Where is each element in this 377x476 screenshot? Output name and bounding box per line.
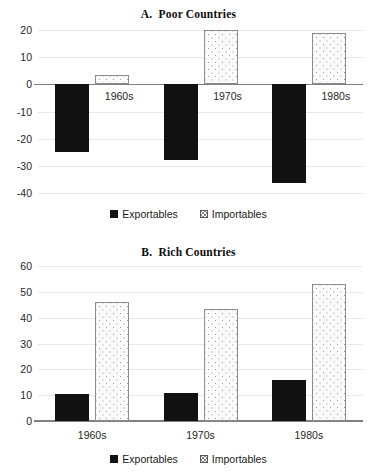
bar-importables-1970s [204,30,238,84]
bar-exportables-1980s [272,84,306,183]
filled-square-icon [110,210,118,218]
x-axis-category-label-1960s: 1960s [105,90,134,102]
panel-a-poor-countries: A. Poor Countries 20100-10-20-30-401960s… [0,0,377,238]
x-axis-category-label-1980s: 1980s [295,429,324,441]
bar-exportables-1980s [272,380,306,421]
y-axis-tick-label: 60 [20,260,32,272]
dotted-square-icon [200,455,208,463]
gridline [38,30,363,31]
bar-importables-1970s [204,309,238,421]
y-axis-tick-label: -10 [17,106,32,118]
legend-label-importables: Importables [212,453,267,465]
panel-a-plot-area: 20100-10-20-30-401960s1970s1980s [38,30,363,193]
bar-exportables-1970s [164,84,198,160]
bar-importables-1960s [95,75,129,85]
legend-item-importables: Importables [200,208,267,220]
y-axis-tick-label: -40 [17,187,32,199]
y-axis-tick-label: 50 [20,286,32,298]
panel-a-legend: Exportables Importables [0,208,377,220]
y-axis-tick-label: -30 [17,160,32,172]
legend-item-exportables: Exportables [110,453,177,465]
bar-exportables-1960s [55,394,89,421]
panel-a-title: A. Poor Countries [0,8,377,20]
bar-importables-1980s [312,33,346,85]
y-axis-tick-label: 0 [26,415,32,427]
panel-b-plot-area: 60504030201001960s1970s1980s [38,266,363,421]
y-axis-tick-label: -20 [17,133,32,145]
legend-label-importables: Importables [212,208,267,220]
y-axis-tick-label: 10 [20,51,32,63]
panel-b-title: B. Rich Countries [0,246,377,258]
y-axis-tick-label: 20 [20,363,32,375]
y-axis-tick-label: 30 [20,338,32,350]
bar-exportables-1970s [164,393,198,421]
x-axis-category-label-1970s: 1970s [213,90,242,102]
legend-label-exportables: Exportables [122,453,177,465]
gridline [38,193,363,194]
x-axis-category-label-1980s: 1980s [322,90,351,102]
panel-b-rich-countries: B. Rich Countries 60504030201001960s1970… [0,238,377,476]
bar-exportables-1960s [55,84,89,152]
filled-square-icon [110,455,118,463]
gridline [38,166,363,167]
x-axis-category-label-1960s: 1960s [78,429,107,441]
y-axis-tick-label: 0 [26,78,32,90]
dotted-square-icon [200,210,208,218]
y-axis-tick-label: 10 [20,389,32,401]
y-axis-tick-label: 20 [20,24,32,36]
panel-b-legend: Exportables Importables [0,453,377,465]
y-axis-tick-label: 40 [20,312,32,324]
gridline [38,266,363,267]
legend-item-exportables: Exportables [110,208,177,220]
legend-label-exportables: Exportables [122,208,177,220]
figure-two-panel-bar-charts: A. Poor Countries 20100-10-20-30-401960s… [0,0,377,476]
bar-importables-1960s [95,302,129,421]
x-axis-category-label-1970s: 1970s [186,429,215,441]
bar-importables-1980s [312,284,346,421]
legend-item-importables: Importables [200,453,267,465]
